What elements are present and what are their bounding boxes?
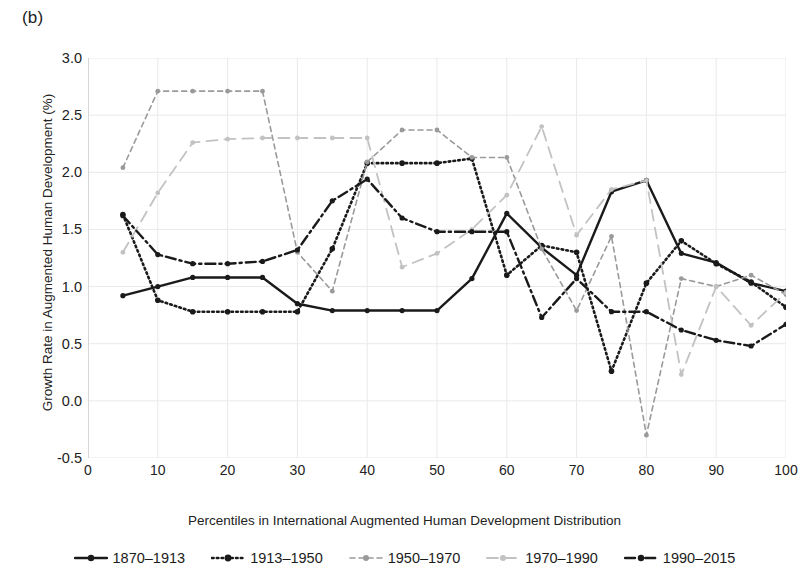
data-point xyxy=(190,309,196,315)
data-point xyxy=(434,229,439,234)
plot-area xyxy=(88,58,786,458)
data-point xyxy=(539,246,544,251)
data-point xyxy=(713,261,719,267)
data-point xyxy=(609,187,614,192)
legend-item[interactable]: 1870–1913 xyxy=(74,550,186,566)
data-point xyxy=(260,259,265,264)
series-solid xyxy=(120,178,786,313)
data-point xyxy=(435,251,440,256)
data-point xyxy=(330,246,336,252)
data-point xyxy=(399,160,405,166)
data-point xyxy=(155,190,160,195)
data-point xyxy=(330,308,335,313)
data-point xyxy=(190,261,195,266)
legend-line-icon xyxy=(74,551,108,565)
data-point xyxy=(679,327,684,332)
data-point xyxy=(400,128,405,133)
panel-label: (b) xyxy=(22,8,43,28)
y-tick-label: 0.5 xyxy=(22,336,82,352)
data-point xyxy=(155,297,161,303)
x-tick-label: 50 xyxy=(429,462,445,478)
legend-label: 1970–1990 xyxy=(525,550,598,566)
data-point xyxy=(504,229,509,234)
x-tick-label: 10 xyxy=(150,462,166,478)
legend-marker xyxy=(363,555,369,561)
data-point xyxy=(330,198,335,203)
data-point xyxy=(749,273,754,278)
data-point xyxy=(190,140,195,145)
data-point xyxy=(644,309,649,314)
data-point xyxy=(679,276,684,281)
data-point xyxy=(365,160,370,165)
y-tick-label: 1.0 xyxy=(22,279,82,295)
data-point xyxy=(295,247,300,252)
legend-marker xyxy=(87,555,93,561)
data-point xyxy=(365,136,370,141)
legend-marker xyxy=(500,555,506,561)
data-point xyxy=(295,136,300,141)
data-point xyxy=(295,301,300,306)
data-point xyxy=(504,272,510,278)
data-point xyxy=(295,309,301,315)
data-point xyxy=(609,234,614,239)
x-tick-label: 0 xyxy=(84,462,92,478)
data-point xyxy=(434,308,439,313)
data-point xyxy=(225,89,230,94)
y-axis-ticks: 3.02.52.01.51.00.50.0-0.5 xyxy=(20,48,82,468)
legend-item[interactable]: 1913–1950 xyxy=(211,550,323,566)
x-tick-label: 60 xyxy=(499,462,515,478)
y-tick-label: 3.0 xyxy=(22,50,82,66)
data-point xyxy=(365,308,370,313)
data-point xyxy=(748,279,754,285)
gridlines xyxy=(88,58,786,458)
data-point xyxy=(539,124,544,129)
x-tick-label: 100 xyxy=(774,462,797,478)
series-group xyxy=(120,89,786,438)
legend-line-icon xyxy=(486,551,520,565)
series-dashdot xyxy=(120,177,786,349)
data-point xyxy=(574,308,579,313)
y-tick-label: 2.5 xyxy=(22,107,82,123)
data-point xyxy=(190,89,195,94)
legend-item[interactable]: 1990–2015 xyxy=(624,550,736,566)
legend-item[interactable]: 1970–1990 xyxy=(486,550,598,566)
data-point xyxy=(400,308,405,313)
x-tick-label: 80 xyxy=(639,462,655,478)
y-tick-label: 2.0 xyxy=(22,164,82,180)
data-point xyxy=(225,261,230,266)
y-tick-label: 0.0 xyxy=(22,393,82,409)
data-point xyxy=(714,284,719,289)
data-point xyxy=(260,275,265,280)
series-line xyxy=(123,180,786,310)
data-point xyxy=(225,137,230,142)
data-point xyxy=(749,323,754,328)
x-tick-label: 30 xyxy=(290,462,306,478)
data-point xyxy=(679,372,684,377)
data-point xyxy=(644,178,649,183)
data-point xyxy=(400,265,405,270)
data-point xyxy=(260,89,265,94)
data-point xyxy=(469,229,474,234)
series-line xyxy=(123,179,786,346)
data-point xyxy=(679,238,685,244)
data-point xyxy=(330,289,335,294)
data-point xyxy=(225,275,230,280)
y-tick-label: 1.5 xyxy=(22,221,82,237)
data-point xyxy=(644,433,649,438)
x-axis-label: Percentiles in International Augmented H… xyxy=(0,513,809,528)
chart-figure: (b) Growth Rate in Augmented Human Devel… xyxy=(0,0,809,585)
legend-marker xyxy=(225,555,232,562)
data-point xyxy=(121,165,126,170)
x-tick-label: 90 xyxy=(708,462,724,478)
series-line xyxy=(123,127,786,375)
legend-label: 1950–1970 xyxy=(388,550,461,566)
data-point xyxy=(434,160,440,166)
legend-item[interactable]: 1950–1970 xyxy=(349,550,461,566)
legend-line-icon xyxy=(349,551,383,565)
data-point xyxy=(120,293,125,298)
legend-label: 1870–1913 xyxy=(113,550,186,566)
legend-label: 1913–1950 xyxy=(250,550,323,566)
data-point xyxy=(539,315,544,320)
data-point xyxy=(574,249,580,255)
x-tick-label: 70 xyxy=(569,462,585,478)
